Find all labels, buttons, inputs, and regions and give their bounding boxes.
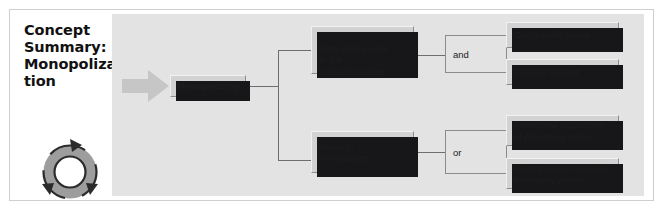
node-intentional-acquisition[interactable]: Intentional acquisition of monopoly powe… — [506, 115, 619, 146]
node-monopoly-power-label: Monopoly power in the relevant market — [319, 43, 389, 77]
entry-arrow-icon — [122, 70, 170, 102]
node-monopolizing[interactable]: Monopolizing — [170, 75, 246, 97]
concept-summary-diagram: Concept Summary: Monopoliza- tion — [0, 0, 663, 216]
connector-root-trunk — [278, 50, 279, 160]
logic-connector-and: and — [445, 35, 507, 73]
node-product-market-label: Product market — [514, 66, 578, 78]
node-intentional-acquisition-label: Intentional acquisition of monopoly powe… — [514, 119, 605, 142]
cycle-arrows-icon — [36, 139, 104, 205]
connector-to-monopoly-power — [278, 50, 311, 51]
logic-connector-or: or — [445, 130, 507, 174]
page-title: Concept Summary: Monopoliza- tion — [24, 22, 120, 90]
logic-connector-or-label: or — [453, 147, 461, 158]
title-panel: Concept Summary: Monopoliza- tion — [12, 12, 112, 198]
node-attempting-to-maintain-label: Attempting to maintain monopoly power — [514, 162, 609, 185]
node-intent-to-monopolize[interactable]: Intent to monopolize — [311, 131, 414, 173]
logic-connector-and-label: and — [453, 49, 469, 60]
node-monopolizing-label: Monopolizing — [176, 80, 239, 92]
node-monopoly-power[interactable]: Monopoly power in the relevant market — [311, 26, 414, 74]
connector-to-intent — [278, 160, 311, 161]
node-attempting-to-maintain[interactable]: Attempting to maintain monopoly power — [506, 158, 619, 189]
node-geographic-scope[interactable]: Geographic scope — [506, 22, 619, 48]
node-geographic-scope-label: Geographic scope — [514, 29, 591, 41]
node-intent-to-monopolize-label: Intent to monopolize — [319, 141, 368, 164]
node-product-market[interactable]: Product market — [506, 59, 619, 85]
